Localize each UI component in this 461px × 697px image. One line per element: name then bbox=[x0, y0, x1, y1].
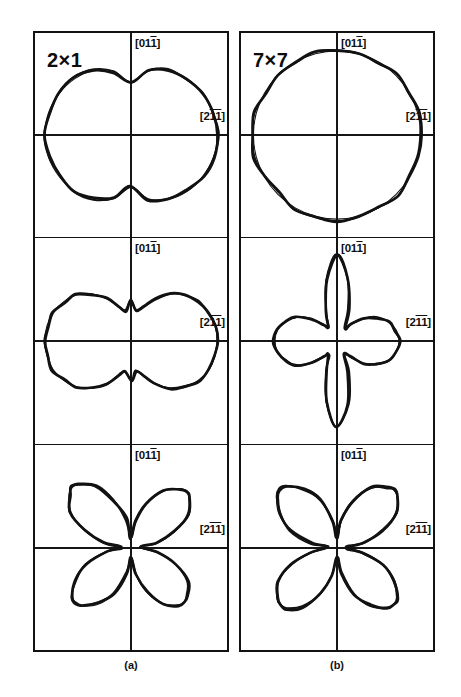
measured-curve bbox=[69, 484, 190, 606]
theory-curve bbox=[277, 487, 397, 609]
measured-curve-overlay bbox=[274, 254, 400, 427]
caption-a: (a) bbox=[33, 659, 229, 671]
panel-b-row2: [011] [211] bbox=[239, 445, 435, 652]
polar-curve-b-row0 bbox=[241, 33, 433, 237]
theory-curve bbox=[275, 255, 399, 427]
figure-polar-plots: 2×1 [011] [211] [011] [211] [011] [211] … bbox=[0, 0, 461, 697]
figure-column-a: 2×1 [011] [211] [011] [211] [011] [211] bbox=[33, 31, 229, 653]
polar-curve-b-row2 bbox=[241, 445, 433, 650]
panel-a-row1: [011] [211] bbox=[33, 238, 229, 445]
measured-curve-overlay bbox=[44, 293, 217, 388]
measured-curve bbox=[273, 255, 400, 427]
panel-a-row0: 2×1 [011] [211] bbox=[33, 31, 229, 238]
theory-curve bbox=[45, 294, 217, 389]
measured-curve bbox=[277, 486, 398, 610]
measured-curve bbox=[45, 293, 218, 389]
theory-curve bbox=[45, 70, 217, 201]
polar-curve-a-row1 bbox=[35, 238, 227, 444]
measured-curve-overlay bbox=[69, 483, 190, 606]
panel-b-row1: [011] [211] bbox=[239, 238, 435, 445]
theory-curve bbox=[69, 485, 189, 607]
caption-b: (b) bbox=[239, 659, 435, 671]
polar-curve-a-row0 bbox=[35, 33, 227, 237]
measured-curve-overlay bbox=[276, 486, 398, 609]
panel-b-row0: 7×7 [011] [211] bbox=[239, 31, 435, 238]
polar-curve-b-row1 bbox=[241, 238, 433, 444]
polar-curve-a-row2 bbox=[35, 445, 227, 650]
measured-curve bbox=[44, 69, 217, 201]
measured-curve-overlay bbox=[44, 68, 219, 200]
figure-column-b: 7×7 [011] [211] [011] [211] [011] [211] bbox=[239, 31, 435, 653]
panel-a-row2: [011] [211] bbox=[33, 445, 229, 652]
